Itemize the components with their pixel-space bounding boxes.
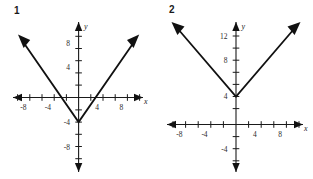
- panel-1-y-axis-name: y: [83, 22, 88, 31]
- panel-1-xtick--4: -4: [45, 103, 51, 112]
- graph-panel-2: 2: [157, 0, 313, 179]
- panel-1-xtick-4: 4: [95, 103, 99, 112]
- y-axis-top-arrowhead: [75, 22, 82, 31]
- panel-1-x-axis: [13, 94, 143, 101]
- x-axis-right-arrowhead: [134, 94, 143, 101]
- panel-1-ytick-8: 8: [66, 39, 70, 48]
- panel-2-plot: -8 -4 4 8 12 8 4 -4 x y: [157, 0, 313, 179]
- curve-left-arrowhead: [18, 35, 30, 48]
- panel-1-plot: -8 -4 4 8 8 4 -4 -8 x y: [0, 0, 156, 179]
- panel-1-x-axis-name: x: [143, 97, 148, 106]
- curve-right-arrowhead: [127, 35, 139, 48]
- panel-2-ytick--4: -4: [221, 145, 227, 154]
- panel-1-xtick-8: 8: [120, 103, 124, 112]
- panel-2-ytick-12: 12: [220, 32, 228, 41]
- panel-2-ytick-8: 8: [224, 56, 228, 65]
- panel-2-y-axis-name: y: [241, 22, 246, 31]
- y-axis-bottom-arrowhead: [232, 163, 239, 172]
- panel-2-xtick--8: -8: [176, 130, 182, 139]
- x-axis-left-arrowhead: [167, 121, 176, 128]
- panel-1-ytick--8: -8: [64, 143, 70, 152]
- panel-2-x-axis: [167, 121, 303, 128]
- y-axis-top-arrowhead: [232, 22, 239, 31]
- graph-panel-1: 1: [0, 0, 156, 179]
- panel-1-xtick--8: -8: [20, 103, 26, 112]
- y-axis-bottom-arrowhead: [75, 163, 82, 172]
- panel-1-ytick--4: -4: [64, 118, 70, 127]
- panel-2-xtick-8: 8: [278, 130, 282, 139]
- panel-2-x-axis-name: x: [303, 124, 308, 133]
- panel-2-ytick-4: 4: [224, 92, 228, 101]
- panel-1-ytick-4: 4: [66, 63, 70, 72]
- panel-2-xtick--4: -4: [201, 130, 207, 139]
- panel-2-xtick-4: 4: [253, 130, 257, 139]
